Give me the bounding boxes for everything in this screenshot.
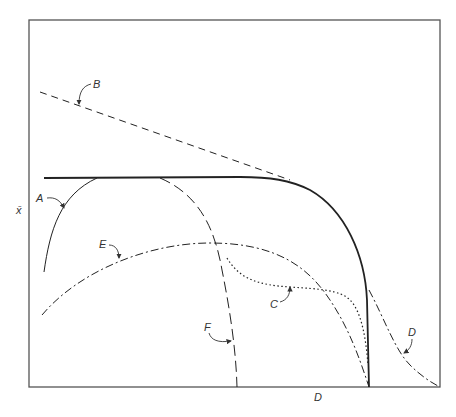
svg-text:F: F [204, 321, 212, 333]
curve-e [42, 243, 369, 387]
svg-text:A: A [35, 192, 43, 204]
label-e: E [99, 238, 119, 258]
curve-f [160, 178, 237, 387]
label-a: A [35, 192, 64, 208]
y-axis-label: x̄ [15, 204, 22, 216]
svg-text:D: D [408, 326, 416, 338]
curve-c [227, 258, 368, 365]
diagram-canvas: B A E C F D x̄ D [0, 0, 456, 417]
x-axis-label: D [314, 391, 322, 403]
label-d: D [404, 326, 416, 353]
curve-d [369, 290, 440, 387]
curve-b [40, 92, 290, 180]
label-f: F [204, 321, 231, 342]
plot-frame [29, 20, 440, 387]
label-b: B [79, 78, 100, 104]
curve-a-rise [44, 178, 97, 272]
svg-text:C: C [270, 298, 278, 310]
svg-text:B: B [93, 78, 100, 90]
label-c: C [270, 287, 290, 310]
svg-text:E: E [99, 238, 107, 250]
curve-a [44, 177, 369, 387]
